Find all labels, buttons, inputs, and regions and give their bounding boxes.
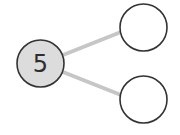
connector-top <box>63 32 121 55</box>
part-node-bottom[interactable] <box>120 76 167 123</box>
whole-node: 5 <box>17 40 64 87</box>
part-node-top[interactable] <box>120 4 167 51</box>
whole-value: 5 <box>33 50 48 78</box>
connector-bottom <box>63 72 121 95</box>
number-bond-diagram: 5 <box>0 0 180 135</box>
number-bond-svg: 5 <box>0 0 180 135</box>
part-circle-top[interactable] <box>120 4 167 51</box>
part-circle-bottom[interactable] <box>120 76 167 123</box>
